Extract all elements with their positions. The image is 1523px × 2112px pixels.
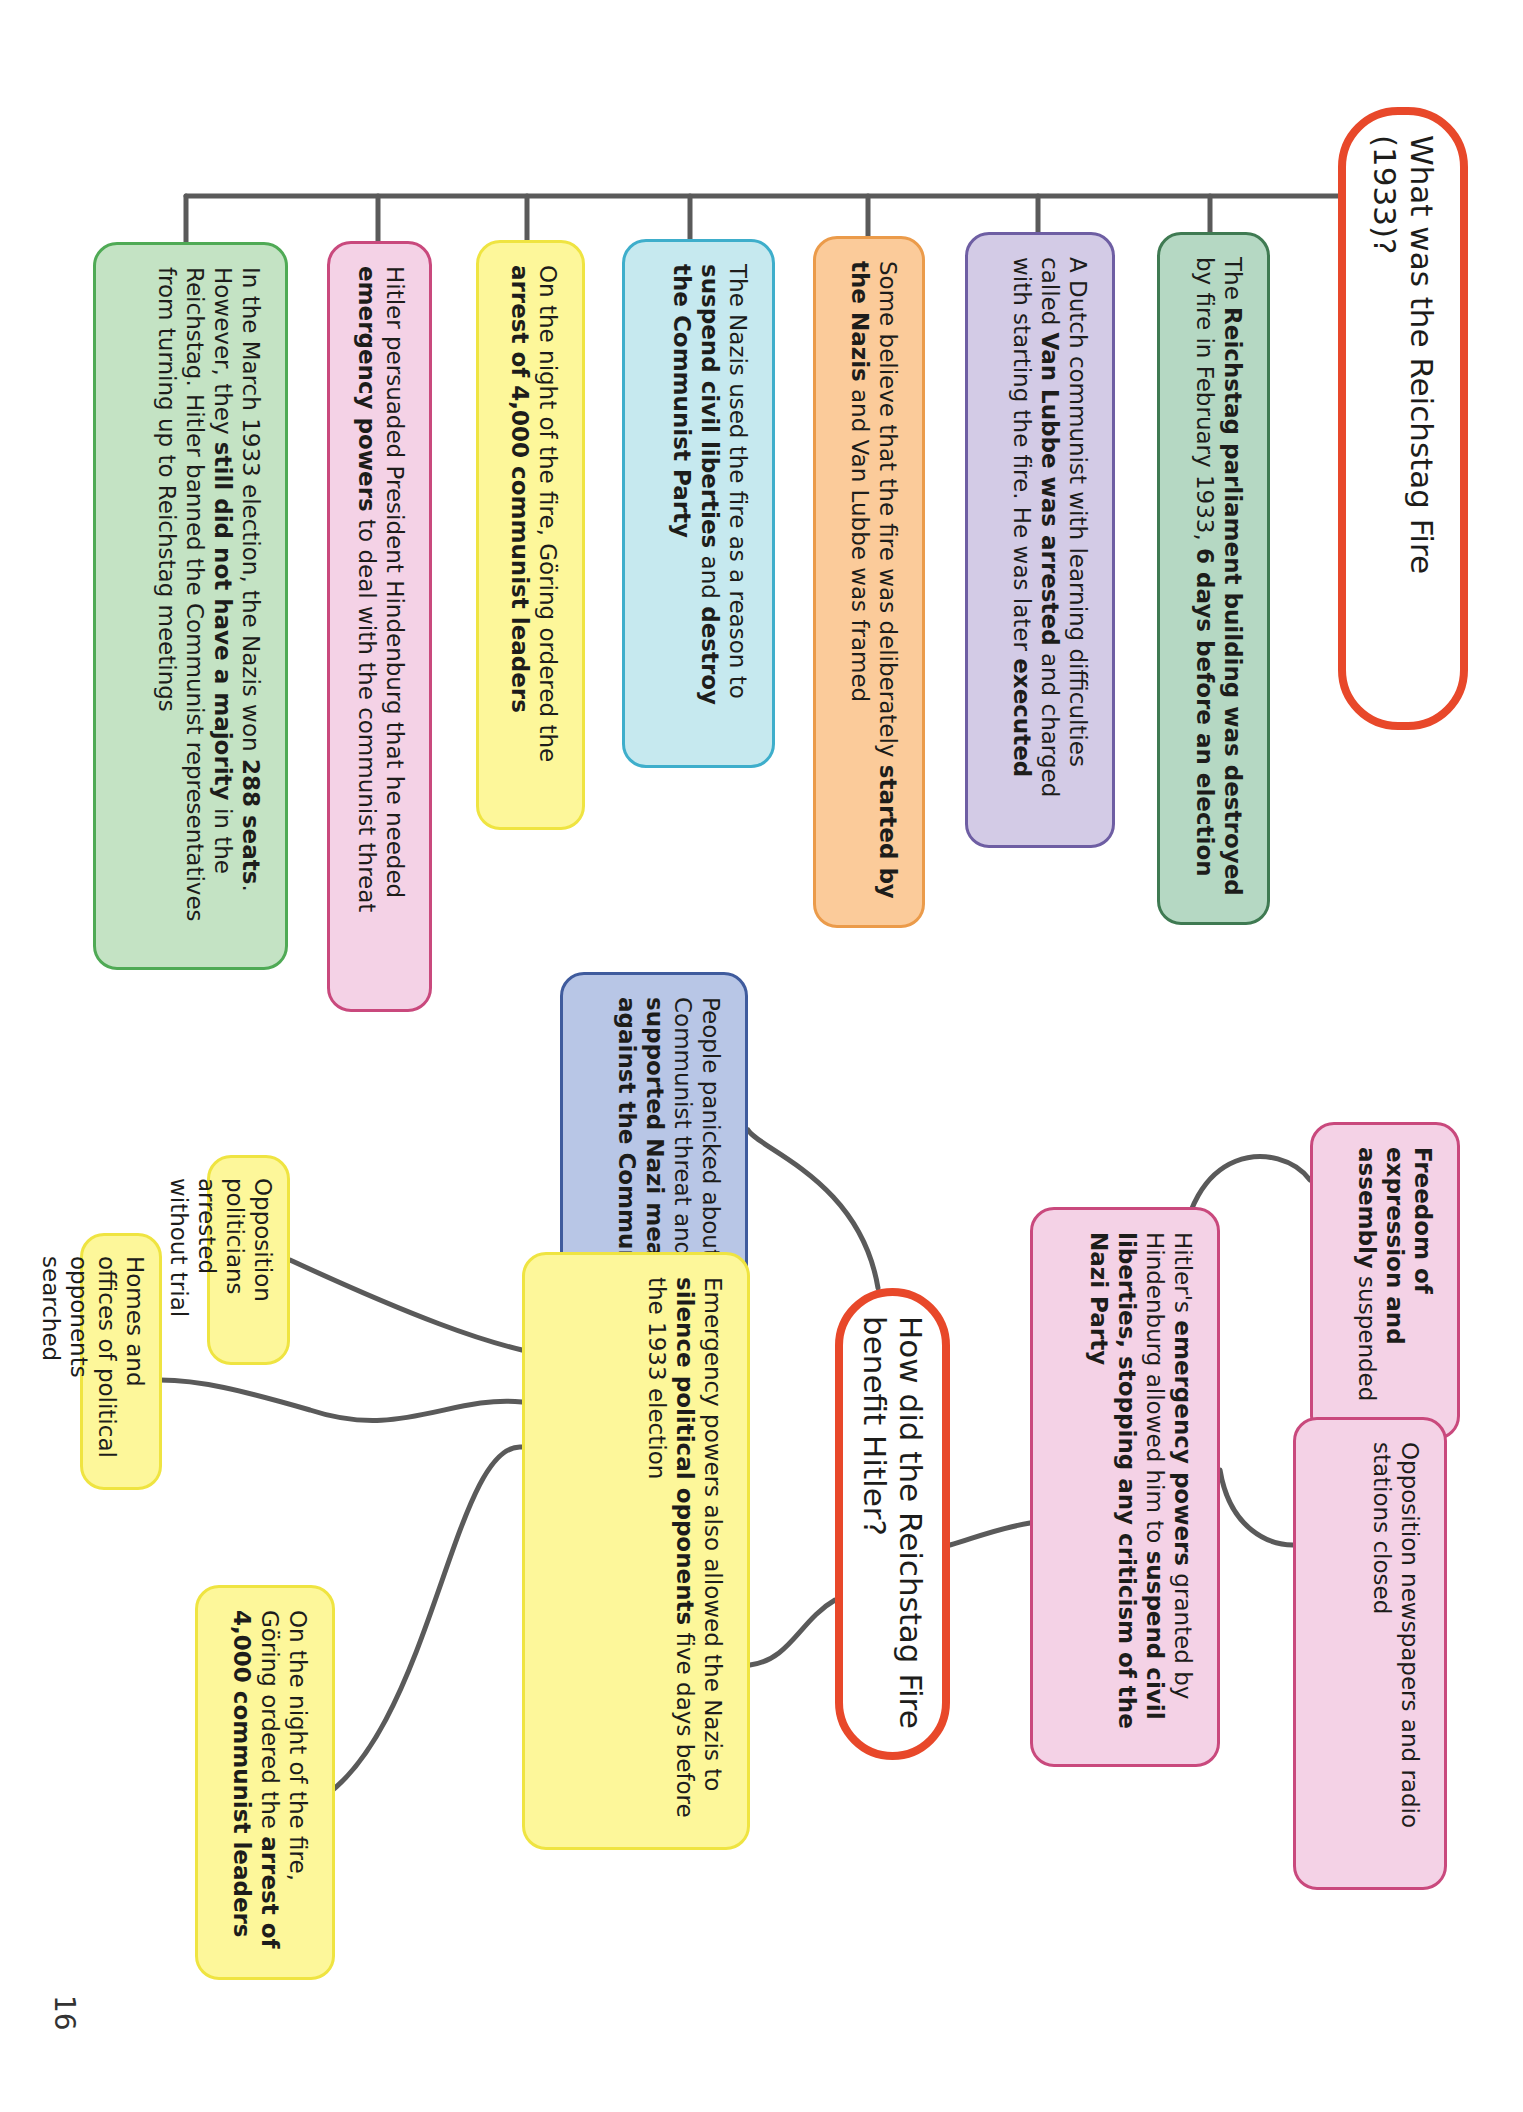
benefit-box-night-arrests: On the night of the fire, Göring ordered… (195, 1585, 335, 1980)
benefit-box-homes-searched: Homes and offices of political opponents… (80, 1233, 162, 1490)
fact-box-arrest-4000: On the night of the fire, Göring ordered… (476, 240, 585, 830)
section1-title-text: What was the Reichstag Fire (1933)? (1366, 135, 1439, 702)
section1-title: What was the Reichstag Fire (1933)? (1338, 107, 1468, 730)
emphasis-text: emergency powers (354, 266, 380, 512)
emphasis-text: arrest of 4,000 communist leaders (507, 265, 533, 713)
benefit-box-silence-opponents: Emergency powers also allowed the Nazis … (522, 1252, 750, 1850)
body-text: The (1220, 257, 1246, 307)
fact-box-emergency-powers: Hitler persuaded President Hindenburg th… (327, 241, 432, 1012)
emphasis-text: Reichstag parliament building was destro… (1220, 307, 1246, 896)
emphasis-text: 6 days before an election (1192, 548, 1218, 876)
body-text: The Nazis used the fire as a reason to (725, 264, 751, 699)
emphasis-text: silence political opponents (672, 1277, 698, 1625)
emphasis-text: emergency powers (1170, 1320, 1196, 1566)
emphasis-text: 288 seats (238, 759, 264, 885)
body-text: Hitler persuaded President Hindenburg th… (382, 266, 408, 898)
body-text: Opposition newspapers and radio stations… (1369, 1442, 1423, 1828)
body-text: On the night of the fire, Göring ordered… (535, 265, 561, 762)
section2-title: How did the Reichstag Fire benefit Hitle… (835, 1288, 950, 1760)
body-text: Opposition politicians arrested without … (166, 1178, 276, 1317)
emphasis-text: still did not have a majority (210, 442, 236, 801)
emphasis-text: suspend civil liberties (697, 264, 723, 548)
body-text: Emergency powers also allowed the Nazis … (700, 1277, 726, 1791)
fact-box-reichstag-destroyed: The Reichstag parliament building was de… (1157, 232, 1270, 925)
body-text: Some believe that the fire was deliberat… (875, 261, 901, 765)
benefit-box-freedom-suspended: Freedom of expression and assembly suspe… (1310, 1122, 1460, 1440)
fact-box-started-by-nazis: Some believe that the fire was deliberat… (813, 236, 925, 928)
body-text: to deal with the communist threat (354, 512, 380, 913)
benefit-box-politicians-arrested: Opposition politicians arrested without … (207, 1155, 290, 1365)
fact-box-van-lubbe: A Dutch communist with learning difficul… (965, 232, 1115, 848)
body-text: suspended (1354, 1269, 1380, 1402)
emphasis-text: executed (1009, 658, 1035, 777)
body-text: by fire in February 1933, (1192, 257, 1218, 548)
benefit-box-newspapers-closed: Opposition newspapers and radio stations… (1293, 1417, 1447, 1890)
fact-box-suspend-liberties: The Nazis used the fire as a reason to s… (622, 239, 775, 768)
section2-title-text: How did the Reichstag Fire benefit Hitle… (856, 1316, 929, 1732)
fact-box-march-election: In the March 1933 election, the Nazis wo… (93, 242, 288, 970)
body-text: In the March 1933 election, the Nazis wo… (238, 267, 264, 759)
body-text: Hitler's (1170, 1232, 1196, 1320)
body-text: and Van Lubbe was framed (847, 382, 873, 702)
emphasis-text: Van Lubbe was arrested (1037, 333, 1063, 646)
page-number: 16 (48, 1995, 81, 2031)
benefit-box-emergency-powers: Hitler's emergency powers granted by Hin… (1030, 1207, 1220, 1767)
body-text: and (697, 548, 723, 606)
